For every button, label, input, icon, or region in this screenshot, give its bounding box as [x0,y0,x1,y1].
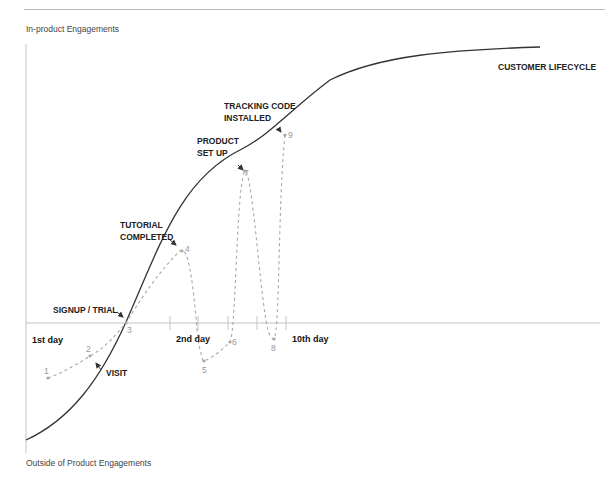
point-label-5: 5 [202,365,207,375]
point-label-9: 9 [288,130,293,140]
point-9 [283,133,286,136]
milestone-tracking-line2: INSTALLED [224,113,271,123]
day-label-1st: 1st day [32,335,63,345]
point-label-6: 6 [232,337,237,347]
point-4 [180,249,183,252]
point-5 [202,359,205,362]
engagement-points [46,133,286,379]
product-setup-arrow [238,165,243,170]
point-label-2: 2 [86,344,91,354]
milestone-tutorial-line2: COMPLETED [120,232,173,242]
point-2 [88,354,91,357]
point-label-4: 4 [185,244,190,254]
milestone-tracking-line1: TRACKING CODE [224,101,296,111]
engagement-path [48,135,285,378]
day-label-10th: 10th day [292,334,329,344]
point-label-7: 7 [244,168,249,178]
point-label-1: 1 [44,366,49,376]
point-label-3: 3 [127,325,132,335]
point-label-8: 8 [271,343,276,353]
milestone-product-line1: PRODUCT [197,136,240,146]
milestone-visit: VISIT [106,368,128,378]
customer-lifecycle-label: CUSTOMER LIFECYCLE [498,62,596,72]
milestone-product-line2: SET UP [197,148,228,158]
tracking-arrow [278,128,281,132]
milestone-signup: SIGNUP / TRIAL [53,305,118,315]
signup-arrow [117,312,123,317]
visit-arrow [96,363,101,370]
milestone-tutorial-line1: TUTORIAL [120,220,163,230]
day-label-2nd: 2nd day [176,334,210,344]
point-8 [272,337,275,340]
point-1 [46,376,49,379]
lifecycle-diagram: 1 2 3 4 5 6 7 8 9 VISIT SIGNUP / TRIAL T… [0,0,615,485]
